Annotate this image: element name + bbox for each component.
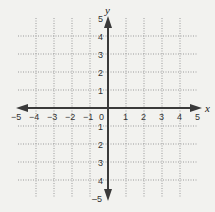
x-axis-right-arrow-icon (190, 104, 202, 112)
x-axis-label: x (204, 102, 210, 114)
y-tick-label: 3 (98, 50, 103, 60)
y-tick-label: 1 (98, 86, 103, 96)
x-axis-left-arrow-icon (16, 104, 28, 112)
x-tick-label: 4 (177, 112, 182, 122)
x-tick-label: 5 (195, 112, 200, 122)
y-axis-label: y (104, 4, 110, 16)
y-tick-label: 4 (98, 176, 103, 186)
y-axis-down-arrow-icon (104, 189, 112, 201)
x-tick-label: −2 (65, 112, 75, 122)
axes (16, 16, 202, 201)
origin-label: 0 (99, 112, 104, 122)
y-tick-label: 4 (98, 32, 103, 42)
x-tick-label: −1 (83, 112, 93, 122)
x-tick-label: 1 (123, 112, 128, 122)
y-axis-up-arrow-icon (104, 16, 112, 28)
x-tick-label: −5 (11, 112, 21, 122)
y-tick-label: 3 (98, 158, 103, 168)
x-tick-label: −4 (29, 112, 39, 122)
y-tick-label: –5 (92, 194, 102, 204)
y-tick-label: 2 (98, 140, 103, 150)
y-tick-label: 5 (98, 14, 103, 24)
y-tick-label: 2 (98, 68, 103, 78)
x-tick-label: 3 (159, 112, 164, 122)
x-tick-labels: −5−4−3−2−112345 (11, 112, 200, 122)
y-tick-label: 1 (98, 122, 103, 132)
x-tick-label: −3 (47, 112, 57, 122)
x-tick-label: 2 (141, 112, 146, 122)
coordinate-plane: x y 0 −5−4−3−2−112345 123451234–5 (0, 0, 215, 212)
